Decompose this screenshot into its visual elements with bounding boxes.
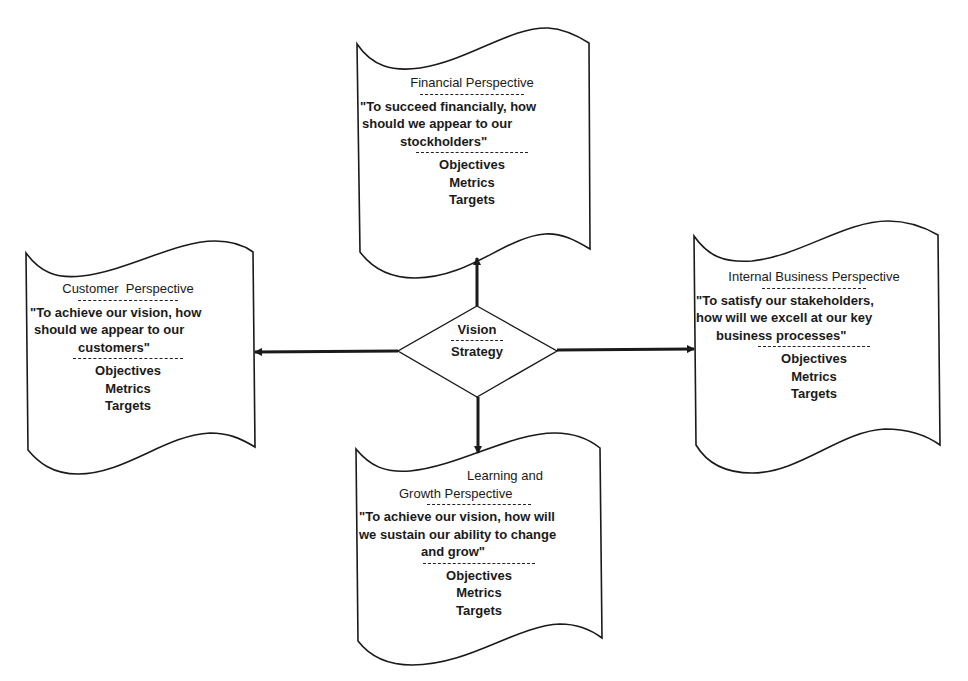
strategy-label: Strategy [437, 344, 517, 359]
learning-question: "To achieve our vision, how will we sust… [357, 508, 601, 561]
customer-title: Customer Perspective [28, 280, 228, 298]
internal-question: "To satisfy our stakeholders, how will w… [696, 292, 932, 345]
internal-business-perspective: Internal Business Perspective "To satisf… [696, 268, 932, 403]
divider [73, 358, 183, 359]
divider [758, 346, 870, 347]
customer-question: "To achieve our vision, how should we ap… [28, 304, 228, 357]
learning-growth-perspective: Learning and Growth Perspective "To achi… [357, 467, 601, 619]
vision-label: Vision [437, 322, 517, 337]
internal-title: Internal Business Perspective [696, 268, 932, 286]
learning-title-line-2: Growth Perspective [357, 485, 601, 503]
arrow-to-customer [255, 351, 398, 352]
divider [416, 152, 528, 153]
customer-items: Objectives Metrics Targets [28, 362, 228, 415]
divider [427, 504, 531, 505]
divider [420, 94, 524, 95]
divider [423, 563, 535, 564]
divider [78, 300, 178, 301]
learning-title-line-1: Learning and [357, 467, 601, 485]
divider [762, 288, 866, 289]
financial-items: Objectives Metrics Targets [358, 156, 586, 209]
divider [451, 340, 503, 341]
vision-strategy-label: Vision Strategy [437, 322, 517, 359]
arrow-to-internal [557, 349, 694, 350]
financial-title: Financial Perspective [358, 74, 586, 92]
learning-items: Objectives Metrics Targets [357, 567, 601, 620]
financial-perspective: Financial Perspective "To succeed financ… [358, 74, 586, 209]
financial-question: "To succeed financially, how should we a… [358, 98, 586, 151]
internal-items: Objectives Metrics Targets [696, 350, 932, 403]
customer-perspective: Customer Perspective "To achieve our vis… [28, 280, 228, 415]
